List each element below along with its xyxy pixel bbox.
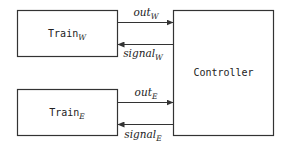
out-w-label: outW [133,6,159,21]
edge-signal-e: signalE [118,125,173,143]
node-controller: Controller [174,11,274,136]
edge-out-w: outW [118,6,173,23]
signal-e-label: signalE [124,128,162,143]
block-diagram: TrainW TrainE Controller outW signalW ou… [0,0,286,148]
edge-signal-w: signalW [118,45,173,62]
node-train-w: TrainW [18,11,118,57]
controller-label: Controller [193,67,253,78]
edge-out-e: outE [118,86,173,103]
node-train-e: TrainE [18,90,118,136]
signal-w-label: signalW [123,47,164,62]
out-e-label: outE [135,86,158,101]
